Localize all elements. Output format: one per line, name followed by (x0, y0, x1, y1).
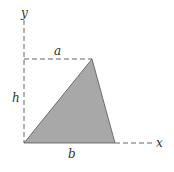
triangle (24, 59, 115, 143)
a-label: a (54, 44, 61, 58)
triangle-diagram: y x a h b (0, 0, 174, 172)
b-label: b (68, 147, 76, 161)
y-axis-label: y (20, 6, 28, 20)
h-label: h (12, 91, 20, 105)
x-axis-label: x (156, 136, 163, 150)
